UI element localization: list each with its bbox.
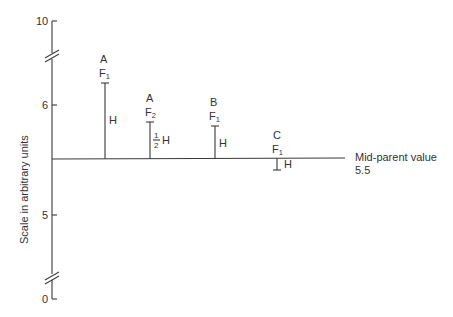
mid-parent-value: 5.5 [355, 164, 370, 176]
svg-text:2: 2 [154, 141, 159, 150]
svg-text:A: A [146, 92, 154, 104]
svg-text:F1: F1 [272, 143, 283, 157]
heterosis-diagram: 10 6 5 0 Scale in arbitrary units Mid-pa… [0, 0, 453, 317]
y-axis-label: Scale in arbitrary units [18, 135, 30, 244]
svg-text:H: H [162, 134, 170, 146]
tick-label-0: 0 [42, 293, 48, 305]
tick-label-6: 6 [42, 99, 48, 111]
svg-text:F2: F2 [145, 106, 156, 120]
svg-text:H: H [219, 137, 227, 149]
svg-text:H: H [284, 158, 292, 170]
bar-c-f1: C F1 H [272, 129, 292, 170]
svg-text:A: A [100, 53, 108, 65]
mid-parent-line [52, 158, 345, 159]
bar-a-f1: A F1 H [99, 53, 117, 159]
tick-label-10: 10 [36, 15, 48, 27]
y-axis [45, 21, 59, 299]
svg-text:F1: F1 [209, 110, 220, 124]
mid-parent-label: Mid-parent value [355, 151, 437, 163]
tick-label-5: 5 [42, 209, 48, 221]
svg-text:B: B [210, 96, 217, 108]
svg-text:1: 1 [154, 131, 159, 140]
bar-b-f1: B F1 H [209, 96, 227, 159]
svg-text:H: H [109, 114, 117, 126]
svg-text:C: C [273, 129, 281, 141]
bar-a-f2: A F2 1 2 H [145, 92, 170, 159]
svg-text:F1: F1 [99, 67, 110, 81]
